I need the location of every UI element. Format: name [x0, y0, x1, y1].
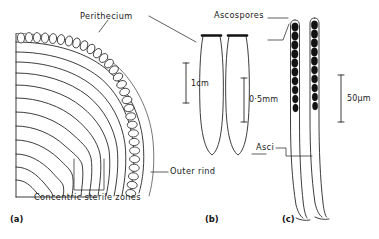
label-concentric-sterile-zones: Concentric sterile zones: [34, 192, 141, 202]
perithecium-group: [17, 32, 139, 197]
panel-a-drawing: [16, 16, 196, 198]
ascospore-chain-left: [292, 23, 299, 112]
ascus-c-left-outline-right: [295, 20, 307, 218]
scale-bar-c: [338, 75, 344, 122]
perithecium-leader-long: [149, 16, 196, 42]
figure-root: .ln { fill:none; stroke:#1a1a1a; stroke-…: [0, 0, 379, 239]
scale-bar-b: [241, 78, 247, 122]
scale-label-a: 1cm: [191, 79, 209, 88]
panel-label-a: (a): [10, 214, 23, 224]
ascospore-chain-right: [311, 21, 318, 110]
panel-label-b: (b): [205, 214, 219, 224]
outer-rind-inner-line: [16, 42, 144, 193]
scale-bar-a: [183, 63, 189, 103]
panel-label-c: (c): [282, 214, 295, 224]
ascus-c-right-outline-right: [315, 18, 327, 217]
label-asci: Asci: [256, 142, 274, 152]
scale-label-c: 50μm: [347, 94, 371, 103]
figure-linework: .ln { fill:none; stroke:#1a1a1a; stroke-…: [0, 0, 379, 239]
panel-c-drawing: [268, 18, 329, 220]
ascus-c-right-outline-left: [310, 18, 322, 217]
perithecium-leader-short: [99, 20, 108, 32]
ascus-b-right-body: [226, 36, 250, 155]
ascus-b-left-body: [200, 36, 224, 155]
label-outer-rind: Outer rind: [170, 166, 215, 176]
label-perithecium: Perithecium: [80, 11, 133, 21]
ascospores-leader-lower: [268, 24, 289, 40]
scale-label-b: 0·5mm: [249, 95, 278, 104]
label-ascospores: Ascospores: [214, 10, 264, 20]
asci-leader-to-c: [276, 148, 312, 156]
ascus-c-left-outline-left: [291, 20, 304, 218]
